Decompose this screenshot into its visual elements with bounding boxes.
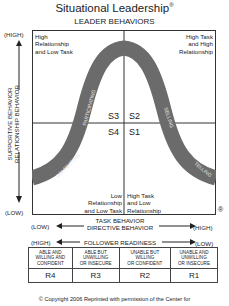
- style-s2: S2: [129, 111, 140, 121]
- readiness-code-r4: R4: [29, 269, 73, 283]
- y-axis-low: (LOW): [5, 209, 23, 216]
- copyright: © Copyright 2006 Reprinted with permissi…: [0, 296, 229, 302]
- readiness-desc-r2: UNABLE BUTWILLINGOR CONFIDENT: [119, 248, 170, 269]
- readiness-high: (HIGH): [31, 239, 51, 246]
- x-axis-low: (LOW): [31, 223, 49, 230]
- y-axis-high: (HIGH): [4, 31, 24, 38]
- readiness-low: (LOW): [195, 240, 213, 247]
- x-axis-arrow: [56, 222, 196, 230]
- readiness-table: ABLE ANDWILLING ANDCONFIDENT ABLE BUTUNW…: [28, 247, 218, 283]
- registered-mark: ®: [218, 206, 223, 213]
- grid-and-curve: DELEGATING PARTICIPATING SELLING TELLING: [32, 30, 216, 215]
- style-s3: S3: [108, 111, 119, 121]
- quadrant-bottom-right: High Taskand LowRelationship: [127, 192, 161, 214]
- readiness-desc-r1: UNABLE ANDUNWILLINGOR INSECURE: [171, 248, 218, 269]
- readiness-desc-r3: ABLE BUTUNWILLINGOR INSECURE: [72, 248, 119, 269]
- readiness-desc-r4: ABLE ANDWILLING ANDCONFIDENT: [29, 248, 73, 269]
- readiness-code-r2: R2: [119, 269, 170, 283]
- readiness-arrow: [56, 238, 196, 246]
- readiness-code-r3: R3: [72, 269, 119, 283]
- style-s1: S1: [129, 127, 140, 137]
- readiness-code-r1: R1: [171, 269, 218, 283]
- quadrant-top-right: High Taskand HighRelationship: [179, 33, 213, 55]
- quadrant-top-left: HighRelationshipand Low Task: [35, 33, 73, 55]
- y-axis-label: SUPPORTIVE BEHAVIOR RELATIONSHIP BEHAVIO…: [6, 59, 20, 189]
- diagram-title: Situational Leadership®: [0, 2, 229, 14]
- style-s4: S4: [108, 127, 119, 137]
- quadrant-bottom-left: LowRelationshipand Low Task: [84, 192, 122, 214]
- diagram-subtitle: LEADER BEHAVIORS: [0, 17, 229, 26]
